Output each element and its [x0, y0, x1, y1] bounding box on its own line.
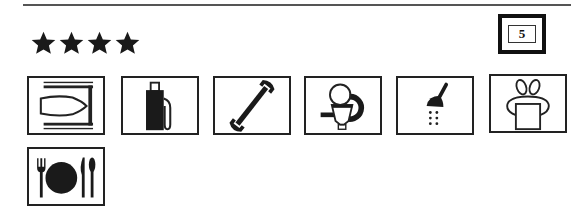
- boat-slip-icon: [29, 78, 103, 133]
- restaurant-icon-box: [27, 147, 105, 206]
- category-number: 5: [508, 25, 536, 43]
- wrench-icon: [215, 78, 289, 133]
- toilet-icon: [306, 78, 380, 133]
- shower-icon: [398, 78, 472, 133]
- top-divider: [23, 4, 571, 6]
- star-rating: [30, 30, 141, 56]
- fuel-pump-icon-box: [121, 76, 199, 135]
- wrench-icon-box: [213, 76, 291, 135]
- star-icon: [114, 30, 141, 56]
- laundry-icon: [491, 76, 565, 131]
- restaurant-icon: [29, 149, 103, 204]
- laundry-icon-box: [489, 74, 567, 133]
- shower-icon-box: [396, 76, 474, 135]
- star-icon: [86, 30, 113, 56]
- category-badge: 5: [498, 14, 546, 54]
- toilet-icon-box: [304, 76, 382, 135]
- fuel-pump-icon: [123, 78, 197, 133]
- boat-slip-icon-box: [27, 76, 105, 135]
- star-icon: [58, 30, 85, 56]
- star-icon: [30, 30, 57, 56]
